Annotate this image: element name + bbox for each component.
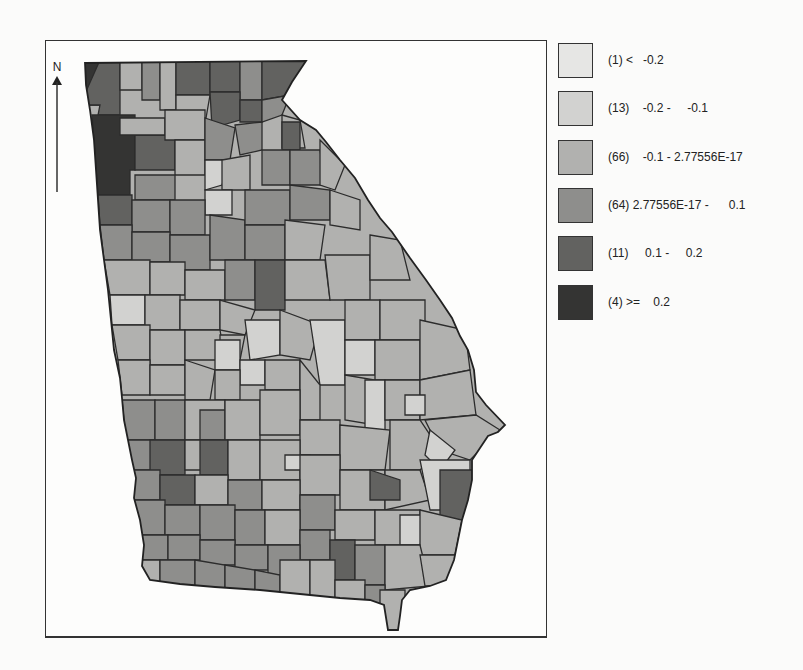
legend-label: (1) < -0.2 — [608, 53, 664, 67]
legend-swatch — [558, 91, 593, 126]
legend-swatch — [558, 236, 593, 271]
legend-label: (4) >= 0.2 — [608, 295, 670, 309]
legend-swatch — [558, 43, 593, 78]
legend-item-class-2: (13) -0.2 - -0.1 — [558, 91, 798, 127]
legend-label: (13) -0.2 - -0.1 — [608, 101, 708, 115]
legend-item-class-4: (64) 2.77556E-17 - 0.1 — [558, 188, 798, 224]
legend-label: (64) 2.77556E-17 - 0.1 — [608, 198, 745, 212]
legend-label: (66) -0.1 - 2.77556E-17 — [608, 150, 743, 164]
legend-swatch — [558, 188, 593, 223]
legend-item-class-1: (1) < -0.2 — [558, 43, 798, 79]
legend-swatch — [558, 140, 593, 175]
legend-swatch — [558, 285, 593, 320]
legend-label: (11) 0.1 - 0.2 — [608, 246, 702, 260]
legend-item-class-6: (4) >= 0.2 — [558, 285, 798, 321]
legend-item-class-3: (66) -0.1 - 2.77556E-17 — [558, 140, 798, 176]
legend-item-class-5: (11) 0.1 - 0.2 — [558, 236, 798, 272]
